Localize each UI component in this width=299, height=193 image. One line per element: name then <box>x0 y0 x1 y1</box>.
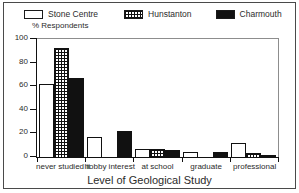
bar-group <box>37 39 85 157</box>
x-axis-label: hobby interest <box>85 162 134 172</box>
y-tick-label-60: 60 <box>19 80 28 89</box>
legend-label-stone-centre: Stone Centre <box>48 9 98 19</box>
bar <box>183 152 198 157</box>
y-tick-0: 0 <box>30 156 37 157</box>
plot-area: 020406080100 <box>36 38 279 158</box>
x-axis-label: never studied it <box>36 162 85 172</box>
legend-entry-hunstanton: Hunstanton <box>124 6 191 22</box>
y-tick-80: 80 <box>30 62 37 63</box>
bar <box>87 137 102 157</box>
y-tick-60: 60 <box>30 85 37 86</box>
bar <box>261 155 276 157</box>
bar-group <box>230 39 278 157</box>
bar <box>150 149 165 157</box>
y-tick-100: 100 <box>30 38 37 39</box>
chart-legend: Stone Centre Hunstanton Charmouth <box>16 6 282 22</box>
y-axis-label: % Respondents <box>32 21 88 30</box>
legend-label-charmouth: Charmouth <box>240 9 282 19</box>
y-tick-label-20: 20 <box>19 127 28 136</box>
legend-entry-charmouth: Charmouth <box>216 6 282 22</box>
bar-group <box>85 39 133 157</box>
bar-group <box>133 39 181 157</box>
x-axis-labels: never studied ithobby interestat schoolg… <box>36 162 279 172</box>
bar-group <box>182 39 230 157</box>
legend-entry-stone-centre: Stone Centre <box>24 6 98 22</box>
bar <box>69 78 84 157</box>
bar <box>54 48 69 157</box>
bar <box>165 150 180 157</box>
y-tick-40: 40 <box>30 109 37 110</box>
y-tick-label-0: 0 <box>24 151 28 160</box>
bar <box>135 149 150 157</box>
legend-label-hunstanton: Hunstanton <box>148 9 191 19</box>
bar <box>39 84 54 157</box>
x-axis-label: at school <box>133 162 182 172</box>
x-axis-title: Level of Geological Study <box>0 174 299 186</box>
y-tick-20: 20 <box>30 132 37 133</box>
bar <box>231 143 246 157</box>
legend-swatch-charmouth <box>216 10 235 19</box>
bar <box>213 152 228 157</box>
bar <box>246 153 261 157</box>
x-axis-label: professional <box>230 162 279 172</box>
bar-chart-figure: Stone Centre Hunstanton Charmouth % Resp… <box>0 0 299 193</box>
y-tick-label-100: 100 <box>15 33 28 42</box>
x-axis-label: graduate <box>182 162 231 172</box>
bar-groups <box>37 39 278 157</box>
y-tick-label-80: 80 <box>19 57 28 66</box>
y-tick-label-40: 40 <box>19 104 28 113</box>
legend-swatch-hunstanton <box>124 10 143 19</box>
bar <box>117 131 132 157</box>
legend-swatch-stone-centre <box>24 10 43 19</box>
